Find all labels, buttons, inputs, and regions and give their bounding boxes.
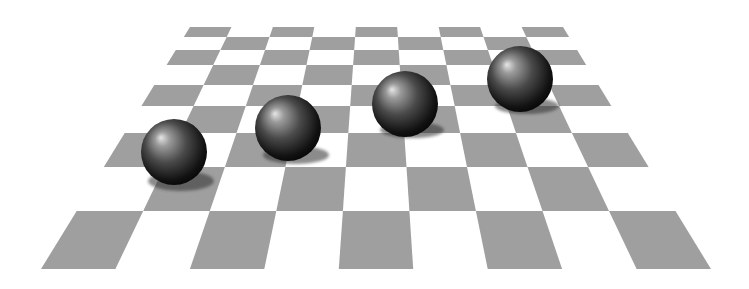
- board-square-dark: [407, 167, 476, 211]
- board-square-dark: [443, 50, 493, 65]
- board-square-dark: [270, 27, 315, 37]
- board-square-dark: [522, 27, 570, 37]
- board-square-dark: [346, 133, 407, 167]
- board-square-dark: [528, 167, 610, 211]
- board-square-dark: [276, 167, 346, 211]
- board-square-dark: [609, 211, 711, 269]
- board-square-dark: [572, 133, 649, 167]
- board-square-dark: [476, 211, 562, 269]
- board-square-dark: [339, 211, 413, 269]
- board-square-dark: [439, 27, 484, 37]
- sphere-4: [487, 46, 553, 112]
- board-square-dark: [260, 50, 310, 65]
- sphere-2: [255, 95, 321, 161]
- board-square-dark: [302, 65, 353, 85]
- board-square-dark: [167, 50, 221, 65]
- board-square-dark: [398, 37, 443, 50]
- board-square-dark: [310, 37, 356, 50]
- board-square-dark: [184, 27, 232, 37]
- board-square-dark: [141, 85, 203, 106]
- checkerboard-scene: Four spheres on a checkerboard: [0, 0, 749, 289]
- scene-canvas: [0, 0, 749, 289]
- board-square-dark: [204, 65, 260, 85]
- board-square-dark: [460, 133, 527, 167]
- board-square-dark: [190, 211, 276, 269]
- board-square-dark: [355, 27, 398, 37]
- board-square-dark: [549, 85, 611, 106]
- sphere-3: [372, 71, 438, 137]
- sphere-1: [141, 119, 207, 185]
- board-square-dark: [41, 211, 143, 269]
- board-square-dark: [220, 37, 269, 50]
- board-square-dark: [353, 50, 400, 65]
